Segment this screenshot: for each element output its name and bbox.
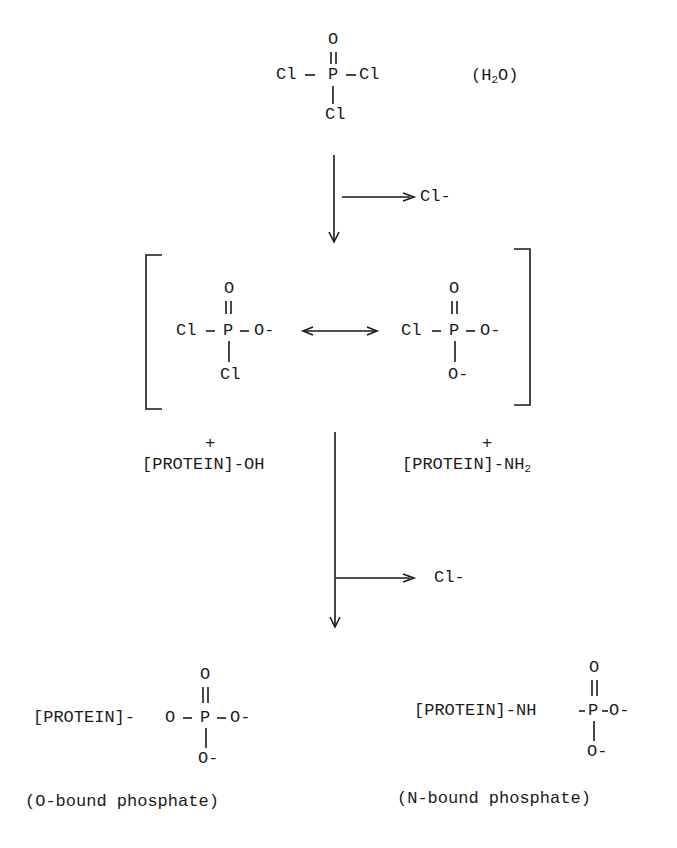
protein-label: [PROTEIN]- (33, 709, 135, 727)
atom-o-minus: O- (198, 750, 218, 768)
atom-o: O (165, 709, 175, 727)
atom-o-minus: O- (230, 709, 250, 727)
reagent-protein-oh: [PROTEIN]-OH (142, 456, 264, 474)
atom-o-minus: O- (480, 322, 500, 340)
atom-cl: Cl (176, 322, 196, 340)
atom-cl: Cl (325, 106, 345, 124)
byproduct-chloride: Cl- (420, 188, 451, 206)
atom-o-minus: O- (609, 702, 629, 720)
atom-o: O (449, 280, 459, 298)
atom-p: P (449, 322, 459, 340)
plus-sign: + (482, 435, 492, 453)
atom-cl: Cl (401, 322, 421, 340)
plus-sign: + (205, 435, 215, 453)
atom-cl: Cl (220, 366, 240, 384)
caption-o-bound: (O-bound phosphate) (25, 793, 219, 811)
atom-p: P (223, 322, 233, 340)
atom-p: P (200, 709, 210, 727)
protein-label: [PROTEIN]-NH (414, 702, 536, 720)
atom-o: O (200, 666, 210, 684)
atom-o: O (328, 31, 338, 49)
atom-o-minus: O- (587, 743, 607, 761)
byproduct-chloride: Cl- (434, 569, 465, 587)
reagent-protein-nh2: [PROTEIN]-NH2 (402, 456, 531, 478)
atom-p: P (588, 702, 598, 720)
atom-o: O (224, 280, 234, 298)
atom-o-minus: O- (448, 366, 468, 384)
atom-p: P (328, 66, 338, 84)
caption-n-bound: (N-bound phosphate) (397, 790, 591, 808)
atom-o-minus: O- (254, 322, 274, 340)
atom-o: O (589, 659, 599, 677)
water-label: (H2O) (471, 67, 518, 89)
atom-cl: Cl (276, 66, 296, 84)
atom-cl: Cl (359, 66, 379, 84)
